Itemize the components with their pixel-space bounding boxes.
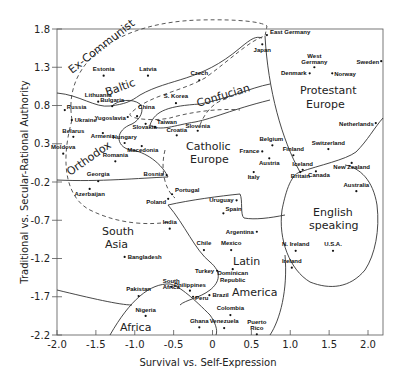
data-point: Russia xyxy=(64,104,87,111)
data-point: Switzerland xyxy=(312,140,346,150)
point-marker xyxy=(127,116,129,118)
data-point: Norway xyxy=(331,71,356,77)
data-point: U.S.A. xyxy=(324,241,342,252)
point-marker xyxy=(62,153,64,155)
region-label-catholic-2: Europe xyxy=(190,153,229,166)
point-marker xyxy=(124,256,126,258)
region-label-baltic: Baltic xyxy=(104,76,137,99)
region-label-south-asia-2: Asia xyxy=(105,238,128,251)
point-label: Norway xyxy=(334,71,356,77)
point-label: Venezuela xyxy=(210,318,240,324)
data-point: Pakistan xyxy=(126,286,151,297)
data-point: Peru xyxy=(192,295,209,301)
point-label: Czech xyxy=(190,70,208,76)
x-tick-label: 2.0 xyxy=(360,339,376,350)
point-marker xyxy=(256,231,258,233)
point-label: Republic xyxy=(220,277,246,283)
region-label-english-1: English xyxy=(313,206,353,219)
data-point: Sweden xyxy=(357,59,383,65)
point-marker xyxy=(97,101,99,103)
point-marker xyxy=(198,326,200,328)
data-point: Mexico xyxy=(221,240,242,251)
point-marker xyxy=(261,150,263,152)
y-tick-label: -1.7 xyxy=(30,291,50,302)
region-label-latin-2: America xyxy=(232,286,277,299)
point-marker xyxy=(261,43,263,45)
point-label: Finland xyxy=(283,146,305,152)
point-marker xyxy=(175,102,177,104)
point-label: China xyxy=(138,104,155,110)
point-marker xyxy=(256,333,258,335)
data-point: Japan xyxy=(254,43,272,53)
orthodox-boundary xyxy=(57,177,168,181)
data-point: Finland xyxy=(283,146,305,156)
point-label: Slovakia xyxy=(132,124,157,130)
point-label: Canada xyxy=(308,172,330,178)
y-tick-label: 1.8 xyxy=(34,24,50,35)
point-marker xyxy=(302,169,304,171)
data-point: Italy xyxy=(248,171,261,180)
point-label: Sweden xyxy=(357,59,380,65)
data-point: Poland xyxy=(146,198,169,205)
point-marker xyxy=(114,160,116,162)
point-marker xyxy=(145,315,147,317)
point-marker xyxy=(111,105,113,107)
x-tick-label: 0.5 xyxy=(243,339,259,350)
point-label: Germany xyxy=(301,59,328,65)
point-label: Peru xyxy=(195,295,209,301)
cultural-map-chart: -2.0-1.5-1.0-0.500.51.01.52.0 1.81.30.80… xyxy=(0,0,399,383)
point-label: Denmark xyxy=(281,70,307,76)
point-marker xyxy=(355,190,357,192)
point-marker xyxy=(266,34,268,36)
data-point: Czech xyxy=(190,70,208,81)
region-label-latin-1: Latin xyxy=(233,255,260,268)
point-marker xyxy=(327,148,329,150)
point-marker xyxy=(236,199,238,201)
data-point: Bosnia xyxy=(144,171,168,177)
data-point: France xyxy=(240,148,264,154)
point-label: Italy xyxy=(248,174,261,180)
point-marker xyxy=(375,122,377,124)
data-point: Colombia xyxy=(217,305,245,316)
data-point: PuertoRico xyxy=(247,319,266,335)
point-label: Mexico xyxy=(221,240,242,246)
point-label: Bangladesh xyxy=(128,254,162,260)
point-marker xyxy=(309,72,311,74)
point-marker xyxy=(136,115,138,117)
x-tick-label: -1.5 xyxy=(86,339,106,350)
point-label: Uruguay xyxy=(209,197,234,203)
data-point: Belarus xyxy=(62,128,85,138)
data-point: Hungary xyxy=(112,134,137,144)
data-point: Belgium xyxy=(260,136,284,146)
data-point: Portugal xyxy=(171,187,200,195)
data-point: Spain xyxy=(222,206,242,214)
data-point: DominicanRepublic xyxy=(217,268,248,283)
point-label: Africa xyxy=(163,284,181,290)
point-label: Russia xyxy=(67,104,87,110)
data-point: Canada xyxy=(308,170,330,178)
point-marker xyxy=(72,136,74,138)
point-label: Iceland xyxy=(292,161,313,167)
data-point: Austria xyxy=(259,157,280,166)
point-label: Yugoslavia xyxy=(94,115,126,121)
x-tick-label: 0 xyxy=(209,339,215,350)
point-marker xyxy=(331,72,333,74)
point-label: France xyxy=(240,148,260,154)
data-point: Yugoslavia xyxy=(94,115,128,121)
point-label: Macedonia xyxy=(127,147,159,153)
data-point: Venezuela xyxy=(210,318,240,329)
data-point: Latvia xyxy=(139,66,157,77)
south-asia-boundary xyxy=(57,290,132,305)
point-marker xyxy=(295,250,297,252)
point-marker xyxy=(147,75,149,77)
data-point: Estonia xyxy=(93,66,115,77)
point-label: Ireland xyxy=(282,258,302,264)
data-point: India xyxy=(163,219,178,230)
data-point: SouthAfrica xyxy=(163,278,181,290)
point-label: Bosnia xyxy=(144,171,165,177)
point-marker xyxy=(222,212,224,214)
point-label: Japan xyxy=(254,47,272,53)
point-marker xyxy=(64,109,66,111)
point-marker xyxy=(208,294,210,296)
point-label: Ghana xyxy=(190,318,209,324)
